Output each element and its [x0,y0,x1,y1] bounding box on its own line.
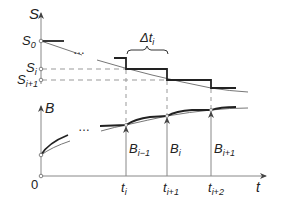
b-marker-label-i1: Bi+1 [214,142,235,158]
s-step-function [114,58,236,88]
bi1-base: B [214,141,223,156]
s-axis-label: S [29,6,39,21]
bi-1-base: B [129,141,138,156]
s0-label: S0 [22,34,36,50]
ti2-sub: i+2 [212,187,224,197]
tick-ti2: ti+2 [208,181,224,197]
ti-sub: i [125,187,127,197]
b-point-ti1 [166,115,169,118]
s0-sub: 0 [31,40,36,50]
interval-brace [127,46,168,54]
bi-base: B [170,141,179,156]
b-start-marker [39,153,43,157]
interval-base: Δt [140,30,152,45]
b-thin-curve-2 [101,108,248,131]
si1-marker [39,78,43,82]
si1-label: Si+1 [17,73,38,89]
t-axis-label: t [256,180,260,194]
si1-base: S [17,72,26,87]
b-axis-label: B [45,101,54,115]
tick-ti: ti [121,181,127,197]
tick-ti1: ti+1 [163,181,179,197]
b-point-ti2 [210,109,213,112]
b-marker-label-i-1: Bi−1 [129,142,150,158]
bi1-sub: i+1 [223,148,235,158]
b-ellipsis: … [78,121,90,133]
s0-base: S [22,33,31,48]
b-point-ti [125,124,128,127]
interval-label: Δti [140,31,154,47]
b-marker-label-i: Bi [170,142,181,158]
s-ellipsis: … [73,44,85,56]
si1-sub: i+1 [26,79,38,89]
bi-1-sub: i−1 [138,148,150,158]
origin-label: 0 [31,178,38,191]
diagram: S B t 0 S0 Si Si+1 Δti … … Bi−1 Bi Bi+1 … [0,0,285,203]
bi-sub: i [179,148,181,158]
ti1-sub: i+1 [167,187,179,197]
si-marker [39,67,43,71]
s0-marker [39,39,43,43]
interval-sub: i [152,37,154,47]
origin-marker [39,174,43,178]
